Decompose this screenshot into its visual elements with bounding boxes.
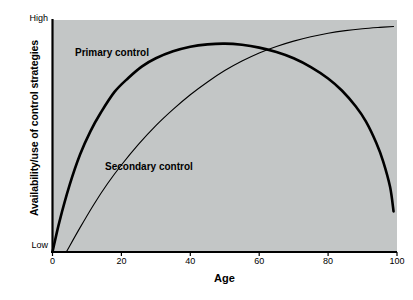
series-label-secondary-control: Secondary control [105, 161, 193, 172]
series-label-primary-control: Primary control [75, 47, 149, 58]
x-axis-title: Age [52, 272, 397, 284]
x-axis-tick-label: 20 [106, 256, 136, 266]
x-axis-tick-label: 40 [175, 256, 205, 266]
x-axis-tick-label: 80 [313, 256, 343, 266]
plot-area [0, 0, 413, 300]
x-axis-tick-label: 100 [382, 256, 412, 266]
x-axis-tick-label: 0 [38, 256, 68, 266]
x-axis-tick-label: 60 [244, 256, 274, 266]
chart-figure: Availability/use of control strategies H… [0, 0, 413, 300]
